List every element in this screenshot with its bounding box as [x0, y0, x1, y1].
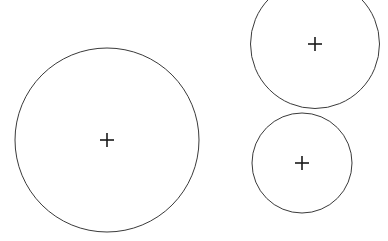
figure-canvas [0, 0, 388, 241]
circle-figure-svg [0, 0, 388, 241]
